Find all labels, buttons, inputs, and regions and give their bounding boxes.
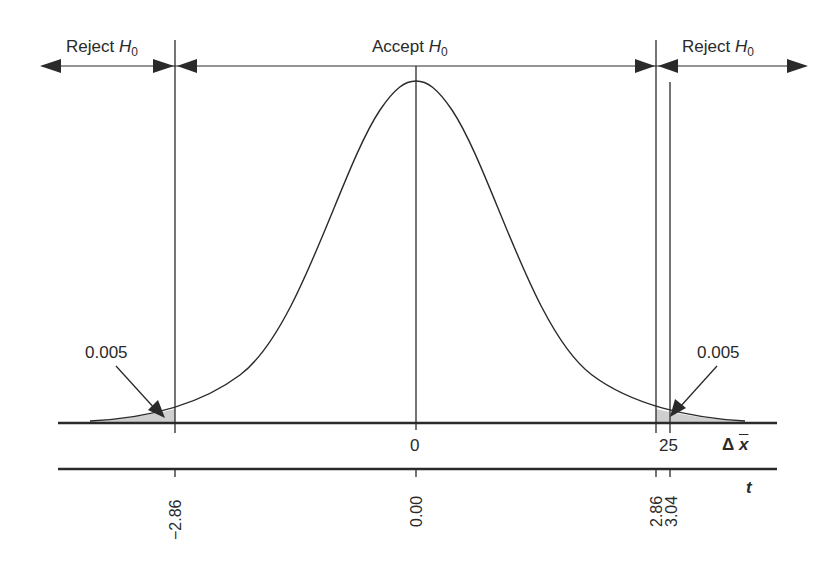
accept-label: Accept H0 <box>372 37 448 57</box>
delta-x-axis-name: Δ x <box>722 435 748 455</box>
region-label-text: Reject <box>66 37 114 56</box>
t-tick-label-000: 0.00 <box>408 496 426 527</box>
hypothesis-subscript: 0 <box>441 45 448 59</box>
hypothesis-subscript: 0 <box>747 45 754 59</box>
delta-x-tick-0: 0 <box>410 436 419 456</box>
right-area-pointer <box>680 366 717 407</box>
arrowhead-right-outer <box>787 59 808 73</box>
delta-x-tick-25: 25 <box>659 436 678 456</box>
hypothesis-symbol: H <box>119 37 131 56</box>
t-tick-label-304: 3.04 <box>663 496 681 527</box>
left-tail-area-label: 0.005 <box>85 343 128 363</box>
reject-left-label: Reject H0 <box>66 37 138 57</box>
delta-symbol: Δ <box>722 435 734 454</box>
arrowhead-left-inner <box>153 59 174 73</box>
region-label-text: Reject <box>682 37 730 56</box>
t-axis-name: t <box>746 478 752 498</box>
arrowhead-left-outer <box>40 59 61 73</box>
hypothesis-test-diagram <box>0 0 823 571</box>
right-tail-area-label: 0.005 <box>697 343 740 363</box>
xbar-symbol: x <box>739 435 748 454</box>
region-label-text: Accept <box>372 37 424 56</box>
arrowhead-accept-left <box>177 59 197 73</box>
hypothesis-symbol: H <box>429 37 441 56</box>
normal-curve <box>90 81 745 421</box>
hypothesis-subscript: 0 <box>131 45 138 59</box>
arrowhead-right-inner <box>658 59 678 73</box>
left-area-pointer <box>116 366 156 410</box>
hypothesis-symbol: H <box>735 37 747 56</box>
reject-right-label: Reject H0 <box>682 37 754 57</box>
arrowhead-accept-right <box>635 59 655 73</box>
t-tick-label-neg286: −2.86 <box>167 500 185 540</box>
